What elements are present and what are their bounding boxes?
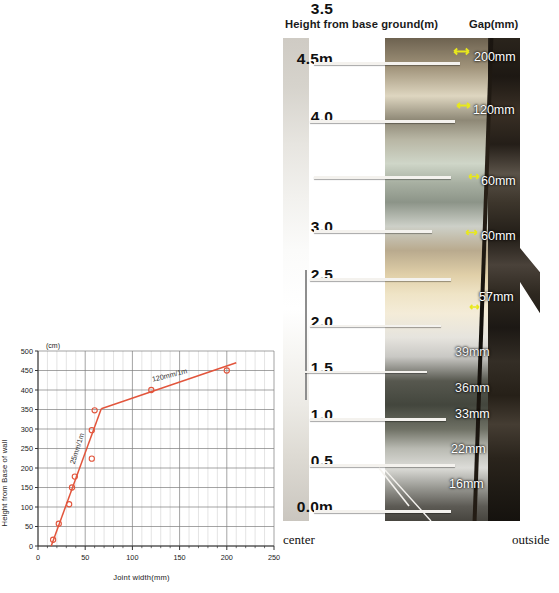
svg-text:50: 50 xyxy=(81,553,89,562)
gap-label-57mm: 57mm xyxy=(479,290,514,304)
height-axis-header: Height from base ground(m) xyxy=(285,18,438,30)
direction-label-center: center xyxy=(283,532,315,548)
gap-label-36mm: 36mm xyxy=(455,381,490,395)
gap-label-16mm: 16mm xyxy=(449,477,484,491)
gap-arrow-60mm-a xyxy=(468,172,485,180)
svg-text:100: 100 xyxy=(21,503,33,512)
gap-column-header: Gap(mm) xyxy=(469,18,518,30)
svg-text:50: 50 xyxy=(25,522,33,531)
gap-label-60mm-b: 60mm xyxy=(481,229,516,243)
svg-text:200: 200 xyxy=(21,464,33,473)
gap-label-120mm: 120mm xyxy=(473,103,515,117)
gap-arrow-57mm xyxy=(469,303,486,311)
height-tick-3.5: 3.5 xyxy=(285,0,333,18)
svg-text:0: 0 xyxy=(36,553,40,562)
svg-text:400: 400 xyxy=(21,386,33,395)
gap-label-39mm: 39mm xyxy=(455,345,490,359)
gap-label-200mm: 200mm xyxy=(474,50,516,64)
gap-label-22mm: 22mm xyxy=(451,442,486,456)
chart-plot-area: 0501001502002503003504004505000501001502… xyxy=(0,335,283,593)
gap-label-33mm: 33mm xyxy=(455,407,490,421)
direction-double-arrow xyxy=(323,530,509,546)
photo-measurement-panel: Height from base ground(m) Gap(mm) 4.5m … xyxy=(283,0,559,593)
direction-annotation: center outside xyxy=(283,524,559,558)
svg-text:450: 450 xyxy=(21,366,33,375)
svg-text:500: 500 xyxy=(21,347,33,356)
svg-text:250: 250 xyxy=(268,553,280,562)
gap-label-60mm-a: 60mm xyxy=(481,174,516,188)
svg-text:200: 200 xyxy=(221,553,233,562)
svg-text:300: 300 xyxy=(21,425,33,434)
svg-text:0: 0 xyxy=(29,542,33,551)
direction-label-outside: outside xyxy=(512,532,550,548)
joint-width-chart: Height from Base of wall (cm) Joint widt… xyxy=(0,335,283,593)
gap-arrow-120mm xyxy=(456,101,473,109)
svg-text:100: 100 xyxy=(126,553,138,562)
gap-arrow-60mm-b xyxy=(465,228,482,236)
panel-headers: Height from base ground(m) Gap(mm) xyxy=(283,18,559,34)
gap-arrow-200mm xyxy=(453,47,470,55)
svg-text:150: 150 xyxy=(174,553,186,562)
svg-text:250: 250 xyxy=(21,444,33,453)
svg-text:150: 150 xyxy=(21,483,33,492)
svg-text:350: 350 xyxy=(21,405,33,414)
chart-tick-labels: 0501001502002503003504004505000501001502… xyxy=(21,347,280,562)
